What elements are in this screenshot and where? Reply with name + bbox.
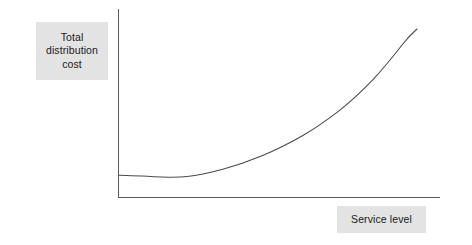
- total-distribution-cost-curve: [119, 29, 417, 177]
- chart-figure: Total distribution cost Service level: [0, 0, 472, 245]
- plot-area: [0, 0, 472, 245]
